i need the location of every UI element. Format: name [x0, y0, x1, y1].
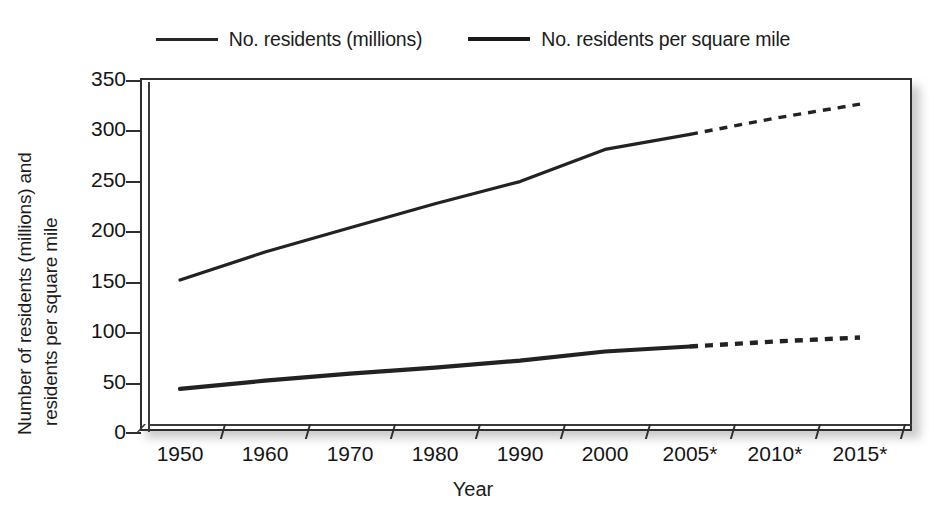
- y-tick-label: 300: [74, 118, 126, 139]
- y-axis-tick: [126, 383, 141, 385]
- line-thin-icon: [156, 38, 218, 41]
- y-axis-tick: [126, 432, 141, 434]
- line-thick-icon: [468, 37, 530, 41]
- y-tick-label: 350: [74, 68, 126, 89]
- x-tick-label: 1950: [132, 443, 228, 465]
- y-tick-label: 0: [74, 421, 126, 442]
- y-axis-tick: [126, 231, 141, 233]
- x-tick-label: 1980: [387, 443, 483, 465]
- y-tick-label: 200: [74, 219, 126, 240]
- x-tick-label: 2005*: [642, 443, 738, 465]
- chart-legend: No. residents (millions) No. residents p…: [0, 22, 946, 56]
- legend-entry-residents-millions: No. residents (millions): [156, 28, 423, 51]
- legend-label-residents-per-square-mile: No. residents per square mile: [541, 28, 790, 51]
- x-tick-label: 1970: [302, 443, 398, 465]
- y-tick-label: 100: [74, 320, 126, 341]
- y-axis-tick: [126, 80, 141, 82]
- x-tick-label: 2010*: [727, 443, 823, 465]
- y-tick-label: 250: [74, 169, 126, 190]
- x-axis-title: Year: [0, 478, 946, 501]
- y-axis-tick: [126, 181, 141, 183]
- x-tick-label: 1990: [472, 443, 568, 465]
- legend-label-residents-millions: No. residents (millions): [229, 28, 423, 51]
- y-axis-tick: [126, 282, 141, 284]
- y-axis-tick: [126, 130, 141, 132]
- x-axis-line: [148, 424, 912, 426]
- y-axis-title: Number of residents (millions) and resid…: [14, 70, 76, 435]
- y-tick-label: 150: [74, 270, 126, 291]
- y-axis-title-line-1: Number of residents (millions) and: [14, 152, 36, 435]
- x-tick-label: 1960: [217, 443, 313, 465]
- x-tick-label: 2015*: [812, 443, 908, 465]
- y-axis-line: [148, 82, 150, 432]
- chart-page: No. residents (millions) No. residents p…: [0, 0, 946, 517]
- y-axis-title-line-2: residents per square mile: [40, 218, 62, 426]
- y-axis-tick: [126, 332, 141, 334]
- x-tick-label: 2000: [557, 443, 653, 465]
- y-axis-tick-labels: 350 300 250 200 150 100 50 0: [74, 68, 126, 440]
- y-tick-label: 50: [74, 371, 126, 392]
- legend-entry-residents-per-square-mile: No. residents per square mile: [468, 28, 790, 51]
- plot-area: [140, 78, 912, 431]
